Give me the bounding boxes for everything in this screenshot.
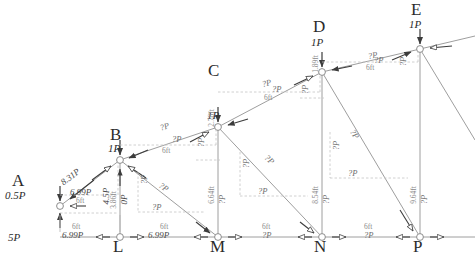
vertical-height-cm: 6.64ft — [208, 186, 216, 204]
force-label-top-chord-cd: ?P — [261, 78, 272, 89]
node-label-B: B — [110, 126, 121, 143]
diagonal-component-h-bm: ?P — [152, 203, 161, 212]
run-dim-bc: 6ft — [162, 147, 170, 155]
force-label-bottom-np: ?P — [364, 231, 373, 240]
node-label-P: P — [413, 238, 422, 255]
diagonal-e-ext — [420, 49, 475, 140]
load-value-D: 1P — [311, 37, 323, 48]
run-dim-ab: 6ft — [76, 197, 84, 205]
force-B-right — [129, 150, 148, 158]
component-v-bc: ?P — [197, 138, 206, 147]
node-label-L: L — [113, 238, 123, 255]
force-B-left — [92, 166, 111, 180]
run-dim-de: 6ft — [366, 64, 374, 72]
node-label-A: A — [12, 172, 24, 189]
vertical-force-cm: ?P — [218, 195, 227, 204]
reaction-value-A: 5P — [8, 232, 20, 243]
vertical-force-bl: 0P — [120, 195, 129, 205]
rise-dim-cd: 1.89ft — [312, 55, 320, 73]
diagonal-component-v-bm: ?P — [140, 175, 149, 184]
rise-dim-bc: 2.78ft — [208, 109, 216, 127]
force-P-diag — [400, 210, 413, 231]
diagonal-component-v-dp: ?P — [332, 141, 341, 150]
joint-A — [57, 203, 64, 210]
load-value-E: 1P — [409, 19, 421, 30]
vertical-force-dn: ?P — [322, 195, 331, 204]
load-value-A: 0.5P — [5, 190, 25, 201]
member-force-arrows — [70, 46, 452, 237]
component-v-cd: ?P — [301, 85, 310, 94]
diagonal-component-v-cn: ?P — [242, 159, 251, 168]
force-N-diag — [300, 222, 314, 233]
node-label-E: E — [411, 1, 421, 18]
truss-diagram-canvas: A B C D E L M N P 0.5P 1P 1P 1P 1P 5P 8.… — [0, 0, 475, 260]
force-D-right — [332, 66, 352, 70]
force-label-bottom-mn: ?P — [262, 231, 271, 240]
force-label-bottom-al: 6.99P — [62, 231, 83, 240]
truss-geometry — [0, 0, 475, 260]
truss-members — [60, 36, 475, 237]
top-chord-e-ext — [420, 36, 475, 49]
diagonal-component-h-dp: ?P — [348, 169, 357, 178]
diagonal-bm — [120, 160, 218, 237]
rise-dim-ab: 3.86ft — [110, 191, 118, 209]
component-h-bc: ?P — [172, 135, 181, 144]
force-M-diag — [196, 222, 210, 233]
component-h-cd: ?P — [272, 85, 281, 94]
diagonal-dp — [322, 72, 420, 237]
vertical-height-dn: 8.54ft — [312, 186, 320, 204]
node-label-D: D — [313, 18, 325, 35]
vertical-force-ep: ?P — [420, 195, 429, 204]
run-dim-cd: 6ft — [264, 94, 272, 102]
load-value-B: 1P — [108, 143, 120, 154]
force-D-left — [294, 76, 313, 85]
node-label-M: M — [210, 238, 225, 255]
component-h-de: ?P — [374, 56, 383, 65]
node-label-N: N — [314, 238, 326, 255]
vertical-height-ep: 9.64ft — [410, 186, 418, 204]
component-v-de: ?P — [399, 57, 408, 66]
force-label-bottom-lm: 6.99P — [148, 231, 169, 240]
diagonal-cn — [218, 127, 322, 237]
node-label-C: C — [208, 62, 219, 79]
diagonal-component-h-cn: ?P — [258, 187, 267, 196]
